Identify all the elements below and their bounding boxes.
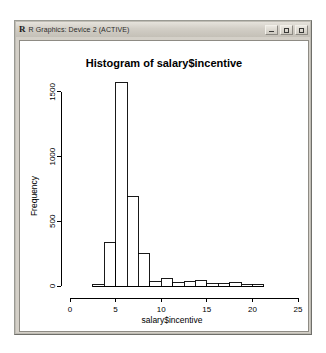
screenshot-root: R R Graphics: Device 2 (ACTIVE) Histogra… <box>0 0 326 353</box>
x-axis-tick-label: 25 <box>294 305 303 314</box>
y-axis: 050010001500 <box>48 82 61 288</box>
x-axis: 0510152025 <box>68 298 303 314</box>
plot-canvas: Histogram of salary$incentive Frequency … <box>19 40 309 332</box>
y-axis-tick-label: 500 <box>48 214 57 228</box>
window-titlebar[interactable]: R R Graphics: Device 2 (ACTIVE) <box>16 22 310 37</box>
histogram-bar <box>138 254 149 286</box>
close-button[interactable] <box>295 25 308 35</box>
y-axis-tick-label: 1000 <box>48 147 57 165</box>
x-axis-tick-label: 0 <box>68 305 73 314</box>
y-axis-tick-label: 1500 <box>48 82 57 100</box>
x-axis-tick-label: 20 <box>248 305 257 314</box>
r-logo-icon: R <box>19 25 26 34</box>
x-axis-tick-label: 5 <box>113 305 118 314</box>
y-axis-label: Frequency <box>29 175 39 216</box>
histogram-bar <box>161 278 172 286</box>
histogram-bar <box>195 280 206 286</box>
window-title: R Graphics: Device 2 (ACTIVE) <box>29 26 264 33</box>
y-axis-tick-label: 0 <box>48 283 57 288</box>
histogram-bar <box>230 282 241 286</box>
x-axis-tick-label: 10 <box>157 305 166 314</box>
histogram-bars <box>93 83 264 286</box>
histogram-bar <box>127 197 138 286</box>
histogram-plot: Histogram of salary$incentive Frequency … <box>20 41 308 331</box>
x-axis-tick-label: 15 <box>202 305 211 314</box>
histogram-bar <box>150 281 161 286</box>
histogram-bar <box>116 83 127 286</box>
histogram-bar <box>184 281 195 286</box>
maximize-button[interactable] <box>280 25 293 35</box>
x-axis-label: salary$incentive <box>142 315 203 325</box>
minimize-button[interactable] <box>265 25 278 35</box>
histogram-bar <box>104 242 115 286</box>
chart-title: Histogram of salary$incentive <box>86 57 243 69</box>
r-graphics-window: R R Graphics: Device 2 (ACTIVE) Histogra… <box>14 20 312 335</box>
